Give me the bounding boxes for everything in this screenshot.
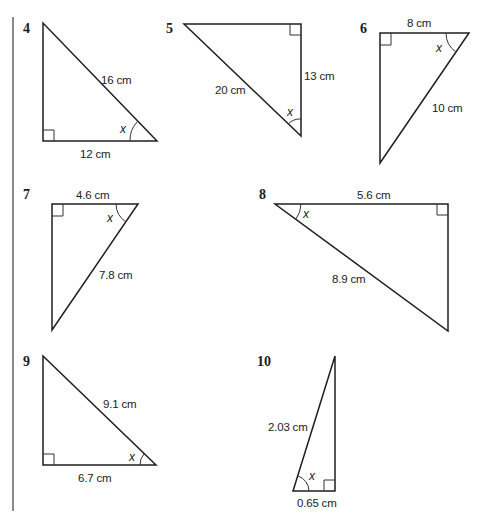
problem-number: 5 (166, 21, 173, 36)
hypotenuse-label: 7.8 cm (99, 269, 132, 281)
problem-number: 9 (23, 354, 30, 369)
problem-10: 10 x 2.03 cm 0.65 cm (257, 354, 337, 509)
angle-arc-icon (296, 204, 301, 219)
problem-number: 8 (259, 187, 266, 202)
adjacent-label: 0.65 cm (297, 497, 337, 509)
adjacent-label: 6.7 cm (78, 472, 111, 484)
top-side-label: 8 cm (407, 17, 431, 29)
right-triangle (184, 24, 301, 136)
top-side-label: 5.6 cm (357, 189, 390, 201)
angle-arc-icon (140, 454, 144, 465)
problem-number: 6 (360, 21, 367, 36)
angle-arc-icon (298, 476, 309, 491)
right-angle-marker-icon (324, 480, 335, 491)
angle-arc-icon (116, 204, 126, 222)
side-label: 13 cm (304, 70, 334, 82)
angle-label: x (128, 450, 136, 464)
problem-number: 7 (23, 187, 30, 202)
problem-6: 6 x 8 cm 10 cm (360, 17, 469, 163)
angle-label: x (308, 469, 316, 483)
problem-number: 10 (257, 354, 271, 369)
right-triangle (275, 204, 448, 331)
hypotenuse-label: 2.03 cm (268, 421, 308, 433)
right-triangle (43, 356, 156, 465)
right-angle-marker-icon (52, 204, 63, 216)
right-angle-marker-icon (43, 454, 54, 465)
right-angle-marker-icon (380, 33, 391, 45)
angle-label: x (302, 207, 310, 221)
right-triangle (380, 33, 469, 163)
right-angle-marker-icon (43, 130, 54, 141)
hypotenuse-label: 10 cm (432, 102, 462, 114)
angle-label: x (119, 122, 127, 136)
problem-4: 4 x 16 cm 12 cm (23, 21, 157, 160)
worksheet-page: 4 x 16 cm 12 cm 5 x 20 cm 13 cm 6 x 8 cm (0, 0, 489, 517)
figures-canvas: 4 x 16 cm 12 cm 5 x 20 cm 13 cm 6 x 8 cm (0, 0, 489, 517)
problem-8: 8 x 5.6 cm 8.9 cm (259, 187, 448, 331)
hypotenuse-label: 9.1 cm (103, 398, 136, 410)
angle-arc-icon (130, 122, 137, 141)
hypotenuse-label: 20 cm (215, 84, 245, 96)
problem-number: 4 (23, 21, 30, 36)
hypotenuse-label: 8.9 cm (332, 273, 365, 285)
angle-label: x (106, 211, 114, 225)
problem-9: 9 x 9.1 cm 6.7 cm (23, 354, 156, 484)
problem-7: 7 x 4.6 cm 7.8 cm (23, 187, 138, 330)
angle-arc-icon (288, 119, 301, 124)
hypotenuse-label: 16 cm (101, 74, 131, 86)
top-side-label: 4.6 cm (76, 189, 109, 201)
adjacent-label: 12 cm (80, 148, 110, 160)
right-angle-marker-icon (290, 24, 301, 35)
problem-5: 5 x 20 cm 13 cm (166, 21, 334, 136)
angle-label: x (286, 105, 294, 119)
right-triangle (43, 23, 157, 141)
right-triangle (52, 204, 138, 330)
right-angle-marker-icon (437, 204, 448, 215)
angle-arc-icon (446, 33, 456, 52)
angle-label: x (435, 41, 443, 55)
